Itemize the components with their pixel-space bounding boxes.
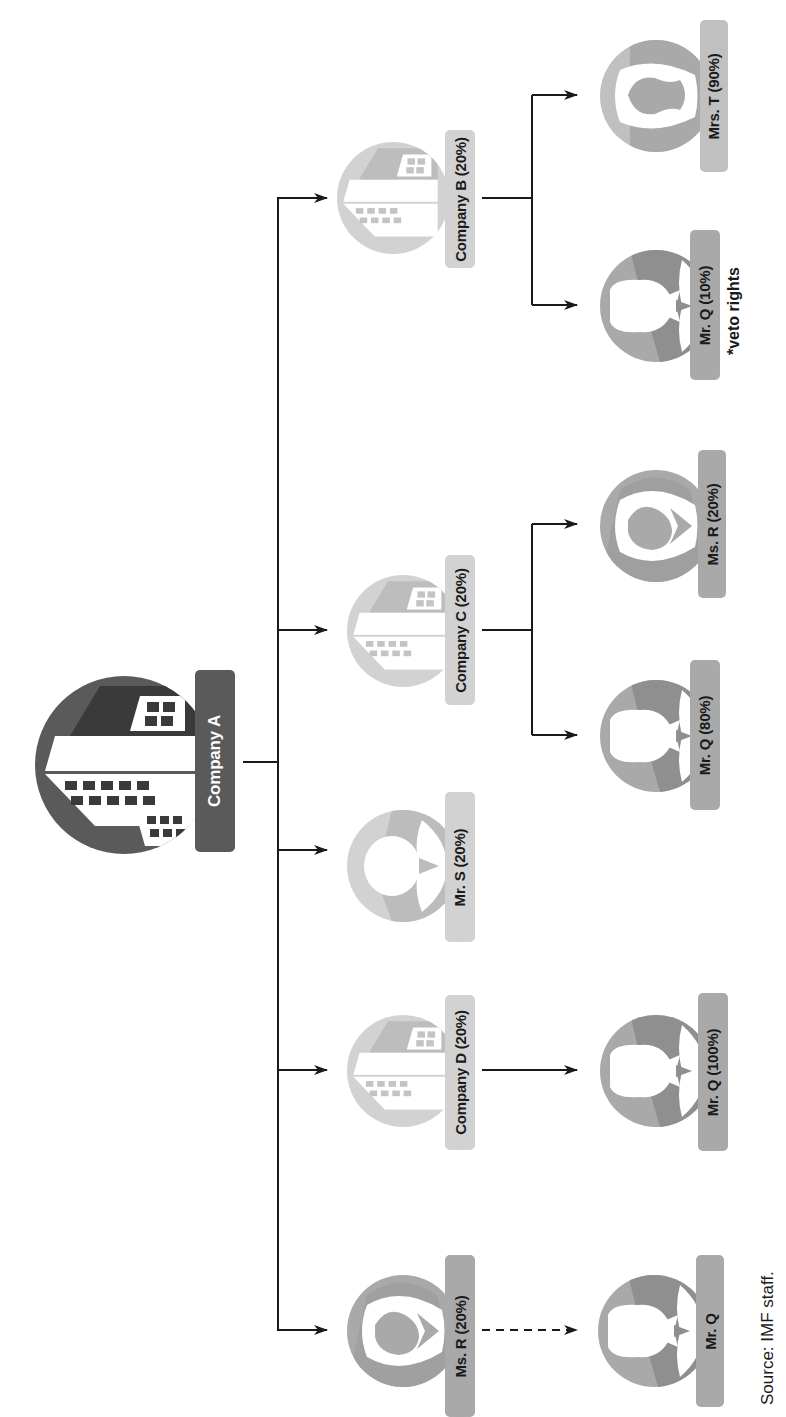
node-label-text: Mr. Q: [702, 1313, 719, 1350]
node-label-text: Mr. Q (100%): [705, 1028, 722, 1116]
node-label: Company C (20%): [445, 555, 475, 705]
node-label: Ms. R (20%): [445, 1255, 475, 1417]
man-icon: [347, 810, 459, 922]
woman-icon: [600, 40, 712, 152]
node-label: Mr. Q: [696, 1255, 724, 1407]
node-label: Company B (20%): [445, 130, 475, 268]
node-label-text: Company C (20%): [452, 568, 469, 693]
node-label-text: Company B (20%): [452, 137, 469, 262]
building-icon: [337, 142, 449, 254]
node-label: Ms. R (20%): [698, 450, 726, 598]
node-label-text: Mr. Q (10%): [697, 265, 714, 345]
woman-icon: [600, 470, 712, 582]
veto-rights-note: *veto rights: [725, 267, 743, 355]
building-icon: [347, 1015, 459, 1127]
node-label: Mr. Q (10%): [690, 230, 720, 380]
node-label-text: Mr. S (20%): [452, 828, 469, 906]
man-icon: [598, 1275, 710, 1387]
woman-icon: [347, 1275, 459, 1387]
node-label: Company D (20%): [445, 995, 475, 1150]
root-label: Company A: [195, 670, 235, 852]
node-label: Mr. S (20%): [445, 792, 475, 942]
node-label-text: Ms. R (20%): [452, 1295, 469, 1377]
node-label-text: Mrs. T (90%): [706, 53, 723, 139]
node-label-text: Mr. Q (80%): [697, 695, 714, 775]
source-note: Source: IMF staff.: [758, 1271, 778, 1405]
node-label-text: Company D (20%): [452, 1010, 469, 1135]
node-label-text: Ms. R (20%): [704, 483, 721, 565]
node-label: Mr. Q (100%): [698, 993, 728, 1151]
man-icon: [600, 1015, 712, 1127]
building-icon: [347, 575, 459, 687]
node-label: Mrs. T (90%): [700, 20, 728, 172]
building-icon: [35, 676, 213, 854]
node-label: Mr. Q (80%): [690, 660, 720, 810]
root-label-text: Company A: [205, 715, 225, 807]
